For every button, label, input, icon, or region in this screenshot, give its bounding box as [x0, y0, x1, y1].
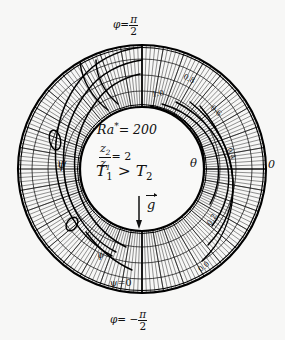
temp-t2-sub: 2	[146, 171, 153, 182]
phi-top-label: φ=π2	[113, 14, 138, 36]
phi-bottom-num: π	[138, 309, 147, 321]
psi-zero-label: ψ=0	[110, 278, 131, 288]
phi-bottom-label: φ= −π2	[110, 309, 147, 331]
gravity-vector-annotation: g	[147, 198, 155, 211]
temperature-inequality-annotation: T1 > T2	[96, 164, 153, 182]
ratio-numerator: z2	[99, 143, 111, 158]
phi-bottom-den: 2	[138, 321, 147, 332]
isotherm-label-1-0: 1.0	[152, 89, 165, 98]
phi-top-eq: =	[120, 18, 129, 30]
psi-symbol-label: ψ	[57, 158, 66, 170]
temp-gt: >	[118, 162, 131, 180]
temp-t1: T	[96, 162, 106, 180]
rayleigh-number-annotation: Ra*= 200	[97, 122, 157, 137]
temp-t2: T	[136, 162, 146, 180]
rayleigh-value: = 200	[119, 122, 157, 137]
rayleigh-symbol: Ra	[97, 122, 114, 137]
gravity-symbol: g	[147, 198, 155, 211]
figure-canvas: φ=π2 φ= −π2 ψ=0 ψ ψ θ 0 1.0 0.8 0.6 0.4 …	[0, 0, 285, 340]
temp-t1-sub: 1	[106, 171, 113, 182]
phi-top-den: 2	[129, 26, 138, 37]
theta-symbol-label: θ	[190, 158, 197, 170]
phi-bottom-eq: = −	[117, 313, 138, 325]
phi-zero-label: 0	[268, 159, 275, 170]
psi-small-label: ψ	[97, 251, 104, 260]
phi-top-num: π	[129, 14, 138, 26]
